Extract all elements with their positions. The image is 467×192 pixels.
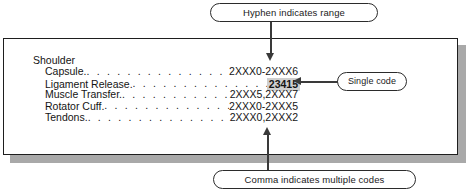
code-value: 2XXX5,2XXX7 <box>230 89 298 101</box>
callout-label: Comma indicates multiple codes <box>245 175 385 185</box>
code-value: 2XXX0,2XXX2 <box>230 112 298 124</box>
code-value: 2XXX0-2XXX6 <box>229 66 298 78</box>
callout-single-connector-line <box>301 81 338 83</box>
callout-comma-indicates-multiple-codes: Comma indicates multiple codes <box>213 170 416 189</box>
code-row-capsule: Capsule. . . . . . . . . . . . . . . . .… <box>33 66 298 78</box>
code-listing-panel: Shoulder Capsule. . . . . . . . . . . . … <box>3 38 458 155</box>
code-row-label: Tendons. <box>45 112 88 124</box>
dot-leader: . . . . . . . . . . . . . . . . . . . . … <box>104 100 229 112</box>
callout-comma-connector-line <box>267 135 269 170</box>
callout-hyphen-indicates-range: Hyphen indicates range <box>210 3 378 22</box>
arrow-down-icon <box>266 53 274 61</box>
dot-leader: . . . . . . . . . . . . . . . . . . . . … <box>88 112 230 124</box>
code-row-label: Capsule. <box>45 66 86 78</box>
figure-canvas: Shoulder Capsule. . . . . . . . . . . . … <box>0 0 467 192</box>
callout-hyphen-connector-line <box>270 22 272 54</box>
dot-leader: . . . . . . . . . . . . . . . . . . . <box>122 89 230 101</box>
code-row-muscle-transfer: Muscle Transfer. . . . . . . . . . . . .… <box>33 89 298 101</box>
code-listing: Shoulder Capsule. . . . . . . . . . . . … <box>33 54 298 124</box>
callout-label: Hyphen indicates range <box>243 8 345 18</box>
callout-single-code: Single code <box>337 72 407 91</box>
dot-leader: . . . . . . . . . . . . . . . . . . . . … <box>86 66 229 78</box>
code-row-label: Muscle Transfer. <box>45 89 122 101</box>
code-row-tendons: Tendons. . . . . . . . . . . . . . . . .… <box>33 112 298 124</box>
arrow-up-icon <box>263 127 271 135</box>
callout-label: Single code <box>348 77 396 86</box>
arrow-left-icon <box>293 77 301 85</box>
